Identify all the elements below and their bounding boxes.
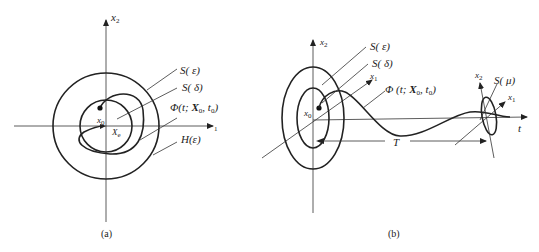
x1-axis-label: 1: [214, 125, 218, 133]
leader-s-epsilon: [147, 69, 177, 90]
label-s-epsilon-b: S( ε): [370, 40, 390, 53]
label-s-epsilon: S( ε): [180, 64, 200, 77]
end-x1-axis: [455, 102, 505, 145]
leader-phi-b: [363, 91, 385, 108]
figure-b: x2 x1 t x0 T x2 x1 S( μ) S( ε): [262, 37, 527, 240]
point-x0-label-b: x0: [303, 108, 312, 120]
end-x2-label: x2: [474, 70, 483, 82]
t-axis-label: t: [518, 122, 522, 134]
x2-axis-label-b: x2: [319, 37, 328, 49]
x2-axis-label: x2: [110, 11, 120, 25]
stability-diagram: x2 1 x0 Xe S( ε) S( δ) Φ(t; X0, t0) H(ε)…: [0, 0, 539, 252]
label-s-delta: S( δ): [182, 81, 203, 94]
label-phi-b: Φ (t; X0, t0): [385, 83, 436, 97]
figure-a: x2 1 x0 Xe S( ε) S( δ) Φ(t; X0, t0) H(ε)…: [14, 11, 218, 240]
caption-b: (b): [388, 228, 400, 240]
period-label: T: [393, 136, 400, 148]
point-x0: [97, 105, 102, 110]
point-xe-label: Xe: [111, 127, 121, 139]
label-phi: Φ(t; X0, t0): [170, 101, 218, 115]
leader-s-epsilon-b: [322, 47, 366, 85]
label-s-mu: S( μ): [494, 74, 515, 87]
label-h-epsilon: H(ε): [180, 133, 201, 146]
label-s-delta-b: S( δ): [372, 57, 393, 70]
end-x1-label: x1: [507, 92, 516, 104]
t-axis: [313, 117, 527, 120]
leader-s-delta-b: [322, 64, 368, 103]
point-x0-label: x0: [96, 115, 105, 127]
period-arrow-left-icon: [316, 138, 324, 144]
caption-a: (a): [101, 228, 112, 240]
